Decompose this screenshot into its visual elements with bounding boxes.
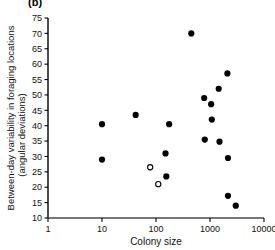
x-tick-label: 1 bbox=[45, 224, 50, 234]
data-point-filled bbox=[216, 139, 222, 145]
data-point-filled bbox=[225, 155, 231, 161]
data-point-filled bbox=[99, 121, 105, 127]
x-tick-label: 10000 bbox=[251, 224, 275, 234]
y-tick-label: 55 bbox=[32, 75, 42, 85]
x-axis-title: Colony size bbox=[130, 236, 182, 247]
y-axis-title-line2: (angular deviations) bbox=[16, 93, 27, 176]
y-tick-label: 65 bbox=[32, 44, 42, 54]
data-point-open bbox=[156, 182, 161, 187]
y-tick-label: 35 bbox=[32, 136, 42, 146]
data-point-filled bbox=[163, 173, 169, 179]
data-point-group bbox=[99, 30, 239, 209]
y-tick-label: 70 bbox=[32, 29, 42, 39]
data-point-open bbox=[148, 165, 153, 170]
y-tick-labels: 1015202530354045505560657075 bbox=[32, 13, 42, 223]
y-tick-label: 45 bbox=[32, 106, 42, 116]
data-point-filled bbox=[133, 112, 139, 118]
y-tick-label: 75 bbox=[32, 13, 42, 23]
x-tick-label: 1000 bbox=[200, 224, 220, 234]
y-tick-label: 50 bbox=[32, 90, 42, 100]
data-point-filled bbox=[233, 203, 239, 209]
data-point-filled bbox=[208, 101, 214, 107]
y-axis-title-line1: Between-day variability in foraging loca… bbox=[5, 25, 16, 210]
y-tick-label: 60 bbox=[32, 59, 42, 69]
x-tick-label: 100 bbox=[148, 224, 163, 234]
y-tick-label: 40 bbox=[32, 121, 42, 131]
data-point-filled bbox=[216, 86, 222, 92]
y-tick-label: 25 bbox=[32, 167, 42, 177]
scatter-plot: 1015202530354045505560657075 11010010001… bbox=[0, 0, 275, 250]
data-point-filled bbox=[166, 121, 172, 127]
data-point-filled bbox=[209, 116, 215, 122]
data-point-filled bbox=[202, 136, 208, 142]
data-point-filled bbox=[224, 70, 230, 76]
y-tick-label: 10 bbox=[32, 213, 42, 223]
data-point-filled bbox=[201, 95, 207, 101]
x-tick-labels: 110100100010000 bbox=[45, 224, 275, 234]
data-point-filled bbox=[162, 150, 168, 156]
y-tick-label: 20 bbox=[32, 182, 42, 192]
data-point-filled bbox=[225, 193, 231, 199]
figure-panel: (b) 1015202530354045505560657075 1101001… bbox=[0, 0, 275, 250]
data-point-filled bbox=[188, 30, 194, 36]
y-tick-label: 30 bbox=[32, 152, 42, 162]
x-tick-label: 10 bbox=[97, 224, 107, 234]
y-tick-label: 15 bbox=[32, 198, 42, 208]
data-point-filled bbox=[99, 156, 105, 162]
